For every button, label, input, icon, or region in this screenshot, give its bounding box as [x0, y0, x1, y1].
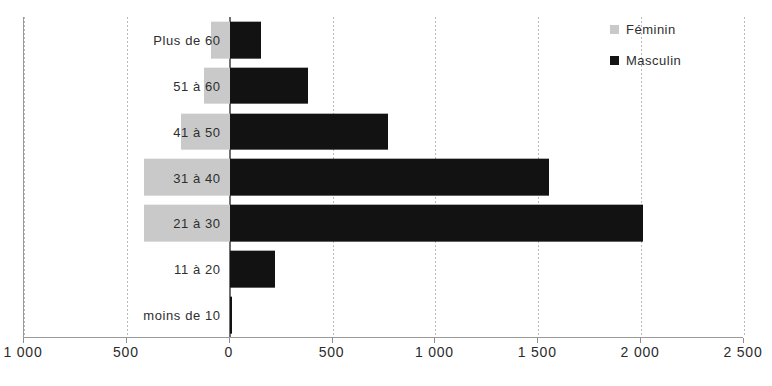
x-tick-label: 2 000 [621, 344, 660, 360]
x-tick [332, 338, 333, 343]
category-label: 11 à 20 [0, 262, 221, 277]
bar-masculin[interactable] [230, 67, 308, 104]
x-tick-label: 500 [319, 344, 345, 360]
legend-label-feminin: Féminin [626, 22, 676, 37]
legend-item-masculin[interactable]: Masculin [610, 53, 681, 68]
legend-label-masculin: Masculin [626, 53, 681, 68]
category-label: 51 à 60 [0, 78, 221, 93]
feminin-swatch-icon [610, 25, 619, 34]
x-tick-label: 500 [113, 344, 139, 360]
bar-masculin[interactable] [230, 205, 643, 242]
bar-masculin[interactable] [230, 22, 261, 59]
x-tick [229, 338, 230, 343]
x-tick-label: 1 500 [518, 344, 557, 360]
population-pyramid-chart: Plus de 6051 à 6041 à 5031 à 4021 à 3011… [0, 0, 772, 386]
x-tick [434, 338, 435, 343]
x-tick [537, 338, 538, 343]
x-tick [640, 338, 641, 343]
x-tick [743, 338, 744, 343]
category-label: 21 à 30 [0, 216, 221, 231]
x-tick [126, 338, 127, 343]
category-label: 41 à 50 [0, 124, 221, 139]
masculin-swatch-icon [610, 56, 619, 65]
bar-masculin[interactable] [230, 251, 275, 288]
bar-masculin[interactable] [230, 159, 549, 196]
x-tick-label: 1 000 [415, 344, 454, 360]
gridline-2500 [744, 17, 745, 337]
x-tick-label: 1 000 [3, 344, 42, 360]
category-label: moins de 10 [0, 308, 221, 323]
x-tick [23, 338, 24, 343]
category-label: Plus de 60 [0, 32, 221, 47]
chart-legend: Féminin Masculin [610, 22, 681, 84]
bar-masculin[interactable] [230, 113, 388, 150]
bar-masculin[interactable] [230, 297, 232, 334]
x-tick-label: 2 500 [723, 344, 762, 360]
x-tick-label: 0 [224, 344, 233, 360]
category-label: 31 à 40 [0, 170, 221, 185]
legend-item-feminin[interactable]: Féminin [610, 22, 681, 37]
